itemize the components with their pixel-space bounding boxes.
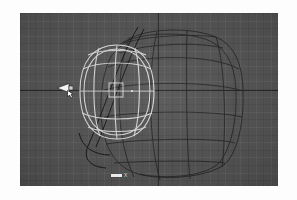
axis-gizmo[interactable]: X	[111, 173, 127, 178]
screenshot-root: X	[0, 0, 297, 200]
pivot-marker	[109, 83, 133, 97]
axis-gizmo-label: X	[124, 173, 127, 178]
axis-gizmo-bar	[111, 174, 122, 177]
inner-oval-mesh[interactable]	[20, 13, 278, 186]
viewport-3d[interactable]: X	[20, 13, 278, 186]
